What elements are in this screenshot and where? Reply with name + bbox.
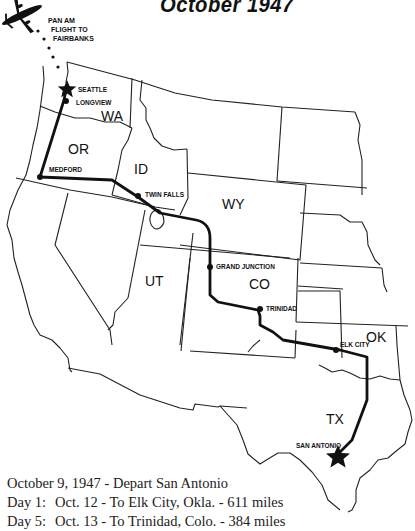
itinerary-legend: October 9, 1947 - Depart San Antonio Day… <box>7 474 285 531</box>
city-label-twin-falls: TWIN FALLS <box>145 191 184 198</box>
state-label-wa: WA <box>101 108 123 124</box>
city-label-medford: MEDFORD <box>49 166 82 173</box>
itinerary-text: October 9, 1947 - Depart San Antonio <box>7 475 228 491</box>
twin-falls-dot <box>135 193 141 199</box>
city-label-seattle: SEATTLE <box>78 86 107 93</box>
flight-note: PAN AM FLIGHT TO FAIRBANKS <box>48 16 94 43</box>
medford-dot <box>37 174 43 180</box>
itinerary-row: Day 5:Oct. 13 - To Trinidad, Colo. - 384… <box>7 512 285 531</box>
itinerary-day: Day 1: <box>7 493 55 512</box>
flight-note-line: FLIGHT TO <box>48 25 94 34</box>
itinerary-text: Oct. 12 - To Elk City, Okla. - 611 miles <box>55 494 283 510</box>
map-title: October 1947 <box>160 0 294 18</box>
state-label-wy: WY <box>222 196 245 212</box>
elk-city-dot <box>333 347 339 353</box>
city-label-grand-junction: GRAND JUNCTION <box>216 263 275 270</box>
flight-note-line: PAN AM <box>48 16 94 25</box>
city-label-longview: LONGVIEW <box>76 99 111 106</box>
pacific-coastline <box>7 66 72 372</box>
itinerary-row: October 9, 1947 - Depart San Antonio <box>7 474 285 493</box>
city-label-san-antonio: SAN ANTONIO <box>296 442 341 449</box>
flight-note-line: FAIRBANKS <box>48 34 94 43</box>
seattle-star-icon <box>58 80 76 97</box>
itinerary-text: Oct. 13 - To Trinidad, Colo. - 384 miles <box>55 513 285 529</box>
state-label-ut: UT <box>145 273 164 289</box>
grand-junction-dot <box>207 264 213 270</box>
wyoming-border <box>180 173 306 260</box>
state-label-co: CO <box>249 276 270 292</box>
state-label-tx: TX <box>326 411 344 427</box>
route-line <box>40 90 367 455</box>
city-label-trinidad: TRINIDAD <box>266 305 297 312</box>
itinerary-row: Day 1:Oct. 12 - To Elk City, Okla. - 611… <box>7 493 285 512</box>
itinerary-day: Day 5: <box>7 512 55 531</box>
state-label-ok: OK <box>366 329 386 345</box>
state-label-id: ID <box>134 161 148 177</box>
state-label-or: OR <box>68 141 89 157</box>
trinidad-dot <box>257 306 263 312</box>
longview-dot <box>63 98 69 104</box>
airplane-icon <box>0 0 50 42</box>
